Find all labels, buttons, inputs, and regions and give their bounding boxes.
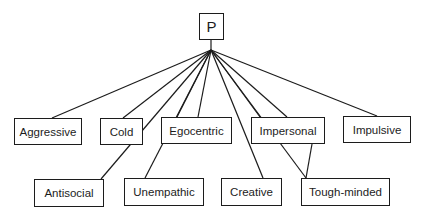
node-label: Antisocial: [44, 187, 93, 199]
edge-hub-tough-minded-upper: [211, 50, 287, 117]
edge-antisocial: [101, 50, 211, 179]
node-impersonal: Impersonal: [251, 117, 325, 144]
node-label: Impersonal: [260, 125, 317, 137]
node-egocentric: Egocentric: [161, 117, 232, 144]
node-aggressive: Aggressive: [14, 118, 82, 145]
node-label: Egocentric: [169, 125, 223, 137]
node-cold: Cold: [100, 118, 143, 145]
node-tough-minded: Tough-minded: [301, 178, 390, 206]
node-label: Unempathic: [133, 186, 194, 198]
edge-aggressive: [52, 50, 211, 118]
node-label: Tough-minded: [309, 186, 382, 198]
node-unempathic: Unempathic: [124, 178, 204, 206]
node-antisocial: Antisocial: [34, 179, 104, 207]
node-label: Aggressive: [20, 126, 77, 138]
node-creative: Creative: [221, 178, 282, 206]
edge-egocentric-2: [198, 50, 211, 117]
node-impulsive: Impulsive: [343, 116, 411, 143]
edge-creative: [211, 50, 263, 178]
root-label: P: [206, 18, 216, 35]
edge-cold: [123, 50, 211, 118]
node-label: Impulsive: [353, 124, 402, 136]
edge-tough-minded-lower: [306, 144, 312, 178]
edge-unempathic: [145, 50, 211, 178]
node-label: Creative: [230, 186, 273, 198]
node-label: Cold: [110, 126, 134, 138]
root-node-p: P: [199, 13, 224, 40]
